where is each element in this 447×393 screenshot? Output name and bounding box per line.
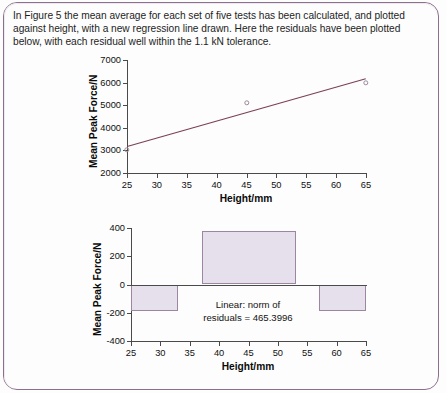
residuals-x-tick-label: 35 (185, 348, 195, 358)
residuals-x-tick (190, 342, 191, 346)
residuals-x-tick (337, 342, 338, 346)
residuals-bar-chart: Mean Peak Force/N Height/mm Linear: norm… (0, 0, 447, 393)
residuals-y-tick (127, 256, 131, 257)
residual-bar (319, 285, 366, 312)
residuals-y-tick-label: 0 (87, 280, 125, 290)
residuals-x-tick (160, 342, 161, 346)
residuals-x-tick (278, 342, 279, 346)
residuals-x-tick-label: 45 (243, 348, 253, 358)
residuals-x-axis-title: Height/mm (222, 361, 275, 372)
residuals-x-tick (307, 342, 308, 346)
residuals-y-tick (127, 228, 131, 229)
residual-bar (202, 231, 296, 285)
residuals-y-tick-label: 400 (87, 223, 125, 233)
residuals-x-tick-label: 30 (155, 348, 165, 358)
residuals-y-tick-label: 200 (87, 251, 125, 261)
residuals-x-tick (131, 342, 132, 346)
residuals-x-tick (219, 342, 220, 346)
residuals-x-tick-label: 25 (126, 348, 136, 358)
residuals-annotation: Linear: norm of residuals = 465.3996 (203, 299, 292, 324)
residual-bar (131, 285, 178, 312)
residuals-x-tick-label: 65 (361, 348, 371, 358)
residuals-y-tick-label: -400 (87, 336, 125, 346)
residuals-y-tick (127, 313, 131, 314)
annotation-line-1: Linear: norm of (203, 299, 292, 312)
residuals-x-tick-label: 50 (273, 348, 283, 358)
residuals-x-tick-label: 40 (214, 348, 224, 358)
residuals-x-tick-label: 55 (302, 348, 312, 358)
residuals-y-tick-label: -200 (87, 308, 125, 318)
residuals-x-tick (249, 342, 250, 346)
residuals-zero-line (131, 285, 367, 286)
annotation-line-2: residuals = 465.3996 (203, 312, 292, 325)
residuals-x-tick-label: 60 (331, 348, 341, 358)
screenshot-page: In Figure 5 the mean average for each se… (0, 0, 447, 393)
residuals-x-tick (366, 342, 367, 346)
